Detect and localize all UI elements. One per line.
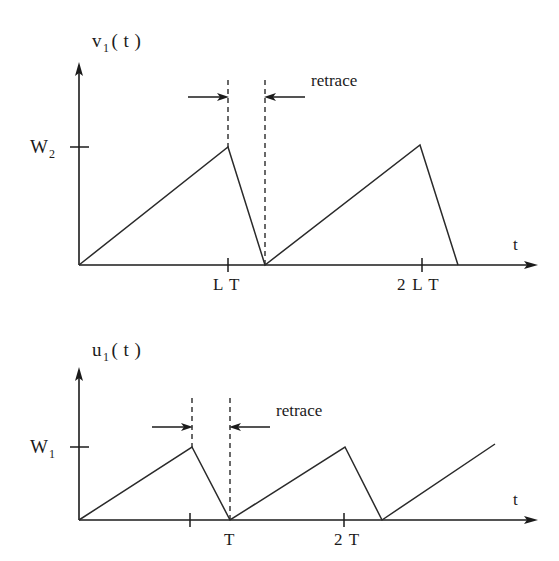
upper-plot-amplitude-label: W2 bbox=[30, 137, 55, 160]
upper-plot-amplitude-label-sub: 2 bbox=[48, 147, 55, 161]
lower-plot-y-axis-label-arg: ( t ) bbox=[112, 339, 142, 360]
waveform-figure: v1( t ) W2 retrace L T 2 L T t u1( t ) W… bbox=[0, 0, 559, 561]
lower-plot-x-tick-label-2t: 2 T bbox=[334, 531, 360, 548]
upper-plot-retrace-annotation: retrace bbox=[311, 72, 357, 89]
lower-plot-retrace-annotation: retrace bbox=[276, 402, 322, 419]
upper-plot-x-tick-label-lt: L T bbox=[213, 276, 241, 293]
lower-plot-group bbox=[70, 367, 538, 527]
lower-plot-amplitude-label: W1 bbox=[30, 437, 55, 460]
upper-plot-y-axis-label: v1( t ) bbox=[92, 31, 141, 54]
upper-plot-y-axis-label-arg: ( t ) bbox=[112, 30, 142, 51]
lower-plot-waveform bbox=[79, 444, 495, 520]
lower-plot-x-axis-label: t bbox=[513, 491, 518, 508]
lower-plot-y-axis-label-main: u bbox=[92, 339, 102, 360]
upper-plot-y-axis-label-sub: 1 bbox=[102, 41, 112, 55]
figure-vector-layer bbox=[0, 0, 559, 561]
upper-plot-group bbox=[70, 62, 538, 272]
upper-plot-x-tick-label-2lt: 2 L T bbox=[397, 276, 440, 293]
upper-plot-amplitude-label-main: W bbox=[30, 136, 48, 157]
lower-plot-x-tick-label-t: T bbox=[224, 531, 236, 548]
lower-plot-y-axis-label: u1( t ) bbox=[92, 340, 141, 363]
upper-plot-x-axis-label: t bbox=[513, 236, 518, 253]
lower-plot-y-axis-label-sub: 1 bbox=[102, 350, 112, 364]
upper-plot-y-axis-label-main: v bbox=[92, 30, 102, 51]
upper-plot-waveform bbox=[79, 145, 458, 265]
lower-plot-amplitude-label-main: W bbox=[30, 436, 48, 457]
lower-plot-amplitude-label-sub: 1 bbox=[48, 447, 55, 461]
